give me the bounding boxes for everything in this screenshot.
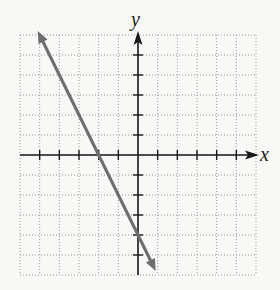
- y-axis-label: y: [131, 8, 140, 31]
- graph-line: [40, 36, 153, 265]
- coordinate-plane: [0, 0, 280, 290]
- x-axis-label: x: [260, 143, 269, 166]
